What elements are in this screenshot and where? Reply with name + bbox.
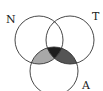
label-n: N xyxy=(6,13,16,26)
label-t: T xyxy=(92,10,100,23)
venn-diagram: N T A xyxy=(0,0,103,91)
label-a: A xyxy=(81,79,91,91)
